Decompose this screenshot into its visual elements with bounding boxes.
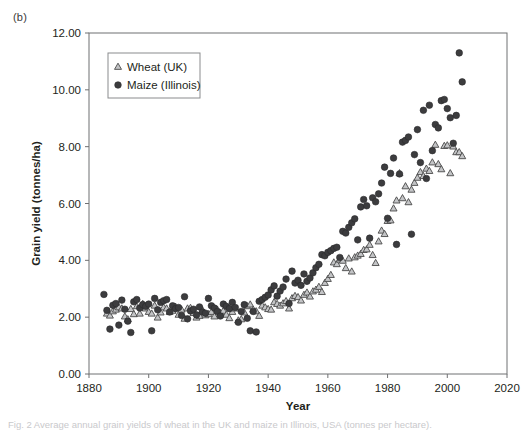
x-axis-tick-label: 1940: [255, 382, 281, 394]
data-point-maize: [178, 312, 185, 319]
data-point-maize: [337, 254, 344, 261]
data-point-maize: [384, 215, 391, 222]
data-point-maize: [145, 301, 152, 308]
data-point-maize: [232, 304, 239, 311]
data-point-maize: [115, 82, 122, 89]
scatter-chart: 0.002.004.006.008.0010.0012.001880190019…: [0, 0, 531, 434]
y-axis-title: Grain yield (tonnes/ha): [30, 141, 42, 266]
x-axis-tick-label: 1900: [136, 382, 162, 394]
data-point-wheat: [366, 241, 373, 247]
data-point-maize: [444, 105, 451, 112]
y-axis-tick-label: 6.00: [59, 198, 81, 210]
data-point-maize: [435, 125, 442, 132]
data-point-maize: [202, 310, 209, 317]
data-point-wheat: [399, 195, 406, 201]
data-point-maize: [420, 107, 427, 114]
legend-label-wheat: Wheat (UK): [127, 61, 187, 73]
legend-box: [108, 53, 200, 98]
data-point-maize: [363, 202, 370, 209]
data-point-maize: [453, 112, 460, 119]
data-point-maize: [181, 293, 188, 300]
data-point-wheat: [405, 199, 412, 205]
data-point-maize: [423, 175, 430, 182]
data-point-maize: [405, 134, 412, 141]
data-point-maize: [175, 304, 182, 311]
data-point-wheat: [390, 205, 397, 211]
data-point-maize: [247, 328, 254, 335]
data-point-maize: [184, 316, 191, 323]
data-point-maize: [375, 191, 382, 198]
data-point-maize: [396, 171, 403, 178]
data-point-wheat: [342, 264, 349, 270]
data-point-maize: [286, 300, 293, 307]
data-point-maize: [283, 276, 290, 283]
figure-caption: Fig. 2 Average annual grain yields of wh…: [8, 421, 432, 430]
data-point-maize: [271, 283, 278, 290]
data-point-maize: [366, 235, 373, 242]
y-axis-tick-label: 12.00: [52, 27, 81, 39]
y-axis-tick-label: 4.00: [59, 254, 81, 266]
data-point-maize: [107, 326, 114, 333]
figure-panel-b: (b) 0.002.004.006.008.0010.0012.00188019…: [0, 0, 531, 434]
data-point-maize: [429, 147, 436, 154]
figure-caption-strip: Fig. 2 Average annual grain yields of wh…: [0, 421, 531, 434]
data-point-maize: [128, 329, 135, 336]
data-point-maize: [241, 301, 248, 308]
data-point-maize: [280, 284, 287, 291]
data-point-maize: [447, 114, 454, 121]
data-point-wheat: [432, 141, 439, 147]
data-point-maize: [148, 328, 155, 335]
data-point-maize: [113, 300, 120, 307]
data-point-maize: [163, 296, 170, 303]
data-point-maize: [357, 204, 364, 211]
data-point-maize: [122, 306, 129, 313]
data-point-maize: [193, 312, 200, 319]
data-point-maize: [205, 295, 212, 302]
x-axis-title: Year: [286, 400, 311, 412]
data-point-maize: [360, 196, 367, 203]
data-point-maize: [250, 308, 257, 315]
x-axis-tick-label: 1880: [76, 382, 102, 394]
data-point-maize: [217, 313, 224, 320]
data-point-maize: [456, 50, 463, 57]
y-axis-tick-label: 10.00: [52, 84, 81, 96]
data-point-maize: [104, 307, 111, 314]
y-axis-tick-label: 8.00: [59, 141, 81, 153]
data-point-maize: [298, 282, 305, 289]
data-point-maize: [316, 261, 323, 268]
data-point-maize: [154, 306, 161, 313]
data-point-maize: [387, 170, 394, 177]
data-point-maize: [166, 309, 173, 316]
data-point-maize: [411, 151, 418, 158]
data-point-maize: [351, 216, 358, 223]
data-point-maize: [408, 231, 415, 238]
x-axis-tick-label: 1980: [375, 382, 401, 394]
data-point-wheat: [429, 159, 436, 165]
data-point-maize: [378, 180, 385, 187]
data-point-maize: [301, 271, 308, 278]
data-point-maize: [354, 237, 361, 244]
data-point-maize: [414, 126, 421, 133]
data-point-maize: [101, 291, 108, 298]
data-point-maize: [390, 155, 397, 162]
data-point-maize: [238, 308, 245, 315]
data-point-wheat: [372, 259, 379, 265]
data-point-wheat: [327, 271, 334, 277]
y-axis-tick-label: 2.00: [59, 311, 81, 323]
x-axis-tick-label: 1920: [196, 382, 222, 394]
data-point-maize: [459, 79, 466, 86]
data-point-maize: [426, 102, 433, 109]
data-point-maize: [450, 140, 457, 147]
data-point-maize: [417, 159, 424, 166]
data-point-maize: [289, 268, 296, 275]
data-point-maize: [334, 244, 341, 251]
data-point-maize: [116, 322, 123, 329]
data-point-wheat: [402, 183, 409, 189]
data-point-maize: [235, 319, 242, 326]
legend-label-maize: Maize (Illinois): [127, 79, 201, 91]
data-point-maize: [381, 164, 388, 171]
data-point-maize: [119, 297, 126, 304]
data-point-maize: [244, 315, 251, 322]
data-point-maize: [133, 296, 140, 303]
x-axis-tick-label: 1960: [315, 382, 341, 394]
